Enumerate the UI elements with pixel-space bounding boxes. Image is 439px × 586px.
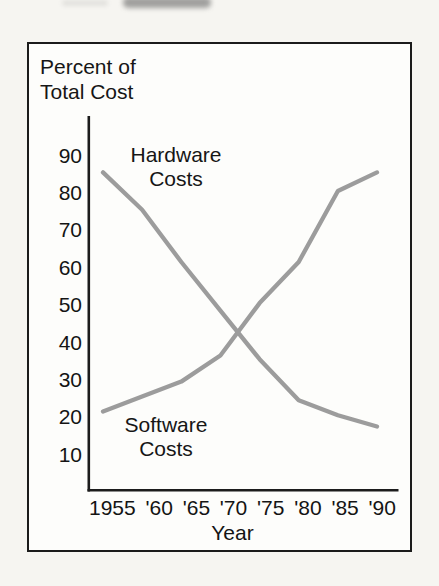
x-tick-label: '75 (257, 496, 284, 520)
scan-artifact-smudge-faint (62, 0, 108, 6)
y-tick-label: 30 (33, 367, 82, 393)
x-axis-tick-labels: 1955'60'65'70'75'80'85'90 (89, 496, 396, 520)
y-axis-tick-labels: 908070605040302010 (29, 44, 410, 550)
x-tick-label: '65 (183, 496, 210, 520)
x-tick-label: '60 (146, 496, 173, 520)
y-tick-label: 10 (33, 442, 82, 468)
x-tick-label: 1955 (89, 496, 136, 520)
x-tick-label: '70 (220, 496, 247, 520)
x-axis-title: Year (79, 521, 386, 545)
figure-frame: Percent of Total Cost Hardware Costs Sof… (27, 42, 412, 552)
x-tick-label: '90 (369, 496, 396, 520)
y-tick-label: 20 (33, 404, 82, 430)
scanned-figure-page: Percent of Total Cost Hardware Costs Sof… (0, 0, 439, 586)
x-tick-label: '85 (331, 496, 358, 520)
y-tick-label: 90 (33, 143, 82, 169)
y-tick-label: 60 (33, 255, 82, 281)
y-tick-label: 50 (33, 292, 82, 318)
x-tick-label: '80 (294, 496, 321, 520)
scan-artifact-smudge (123, 0, 211, 8)
y-tick-label: 40 (33, 330, 82, 356)
y-tick-label: 70 (33, 217, 82, 243)
y-tick-label: 80 (33, 180, 82, 206)
